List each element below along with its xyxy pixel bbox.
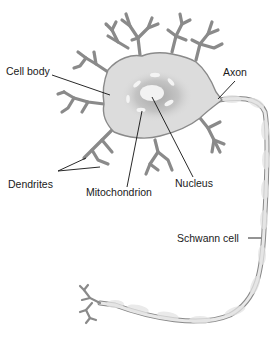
label-nucleus: Nucleus bbox=[175, 177, 213, 189]
label-mitochondrion: Mitochondrion bbox=[86, 186, 152, 198]
nucleus bbox=[140, 85, 164, 101]
label-schwann-cell: Schwann cell bbox=[177, 232, 239, 244]
axon-terminal bbox=[80, 285, 100, 323]
label-axon: Axon bbox=[223, 66, 247, 78]
label-dendrites: Dendrites bbox=[8, 178, 53, 190]
label-cell-body: Cell body bbox=[6, 65, 50, 77]
neuron-diagram bbox=[0, 0, 276, 340]
